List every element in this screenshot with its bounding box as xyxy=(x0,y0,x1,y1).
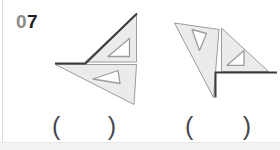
page-bottom-edge xyxy=(0,142,280,150)
left-figure-lower-set-square xyxy=(56,65,137,105)
right-figure-traced-line xyxy=(216,73,278,98)
answer-blank-right: ( ) xyxy=(185,114,251,138)
open-paren: ( xyxy=(185,114,193,138)
answer-blank-left: ( ) xyxy=(52,114,116,138)
close-paren: ) xyxy=(243,114,251,138)
worksheet-page: 07 ( ) ( ) xyxy=(0,0,280,150)
open-paren: ( xyxy=(52,114,60,138)
close-paren: ) xyxy=(108,114,116,138)
